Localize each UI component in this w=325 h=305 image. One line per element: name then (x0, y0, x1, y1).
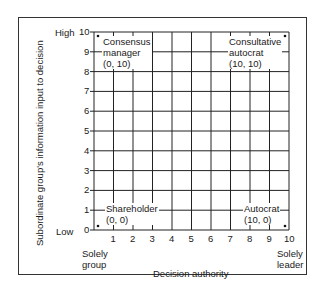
y-tick: 1 (84, 204, 89, 215)
y-high-label: High (55, 27, 75, 38)
x-tick: 3 (150, 233, 155, 244)
y-tick: 10 (79, 26, 90, 37)
x-left-label: Solely group (82, 248, 108, 270)
x-axis-title: Decision authority (153, 268, 229, 279)
y-tick: 5 (84, 125, 89, 136)
x-tick: 8 (247, 233, 252, 244)
autocrat-label: Autocrat (10, 0) (243, 203, 280, 225)
y-axis-title: Subordinate group's information input to… (34, 40, 45, 246)
x-tick: 5 (189, 233, 194, 244)
y-low-label: Low (56, 226, 73, 237)
x-tick: 7 (228, 233, 233, 244)
y-tick: 6 (84, 105, 89, 116)
y-tick: 7 (84, 85, 89, 96)
x-tick: 6 (208, 233, 213, 244)
shareholder-label: Shareholder (0, 0) (105, 203, 159, 225)
y-tick: 3 (84, 165, 89, 176)
x-tick: 9 (267, 233, 272, 244)
consensus-manager-label: Consensus manager (0, 10) (102, 36, 152, 69)
y-tick: 0 (84, 224, 89, 235)
x-tick: 10 (284, 233, 295, 244)
y-tick: 9 (84, 46, 89, 57)
x-tick: 2 (130, 233, 135, 244)
x-tick: 1 (111, 233, 116, 244)
y-tick: 4 (84, 145, 89, 156)
consultative-autocrat-label: Consultative autocrat (10, 10) (228, 36, 282, 69)
x-right-label: Solely leader (277, 248, 303, 270)
y-tick: 2 (84, 184, 89, 195)
x-tick: 4 (169, 233, 174, 244)
y-tick: 8 (84, 66, 89, 77)
